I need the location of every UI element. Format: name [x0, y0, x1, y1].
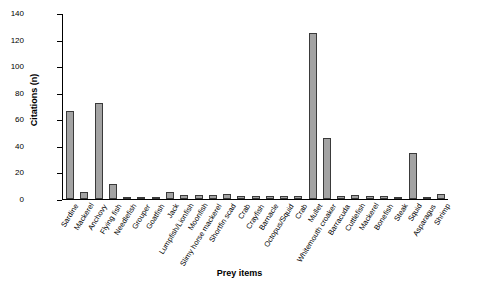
- bar[interactable]: [137, 197, 145, 199]
- bar-slot: [306, 14, 320, 199]
- bar-slot: [63, 14, 77, 199]
- bar-slot: [334, 14, 348, 199]
- bar-slot: [106, 14, 120, 199]
- bar[interactable]: [323, 138, 331, 199]
- bar[interactable]: [195, 195, 203, 199]
- bar-slot: [77, 14, 91, 199]
- bar[interactable]: [394, 197, 402, 199]
- y-tick-mark: [57, 147, 62, 148]
- bar-slot: [134, 14, 148, 199]
- bar[interactable]: [309, 33, 317, 199]
- bar-slot: [248, 14, 262, 199]
- bar[interactable]: [209, 195, 217, 199]
- bar-slot: [120, 14, 134, 199]
- x-tick-label: Steak: [392, 202, 410, 223]
- bar[interactable]: [109, 184, 117, 199]
- bar[interactable]: [351, 195, 359, 199]
- bar-slot: [405, 14, 419, 199]
- bar-slot: [220, 14, 234, 199]
- bar-slot: [206, 14, 220, 199]
- bar[interactable]: [280, 196, 288, 199]
- bar-slot: [234, 14, 248, 199]
- bar-slot: [277, 14, 291, 199]
- y-tick-mark: [57, 41, 62, 42]
- bar-slot: [92, 14, 106, 199]
- bar[interactable]: [266, 196, 274, 199]
- bar[interactable]: [80, 192, 88, 199]
- bar[interactable]: [366, 196, 374, 199]
- bars-layer: [63, 14, 448, 199]
- bar[interactable]: [337, 196, 345, 199]
- bar-slot: [263, 14, 277, 199]
- bar-slot: [191, 14, 205, 199]
- bar-slot: [377, 14, 391, 199]
- y-tick-label: 40: [0, 143, 24, 151]
- y-axis-title: Citations (n): [29, 20, 39, 180]
- bar[interactable]: [180, 195, 188, 199]
- y-tick-mark: [57, 120, 62, 121]
- bar[interactable]: [423, 197, 431, 199]
- bar-slot: [363, 14, 377, 199]
- bar-chart: Citations (n) 020406080100120140 Sardine…: [0, 0, 479, 289]
- y-tick-label: 100: [0, 63, 24, 71]
- y-tick-mark: [57, 200, 62, 201]
- bar-slot: [348, 14, 362, 199]
- y-tick-mark: [57, 94, 62, 95]
- y-tick-mark: [57, 14, 62, 15]
- bar-slot: [320, 14, 334, 199]
- bar[interactable]: [380, 196, 388, 199]
- bar[interactable]: [66, 111, 74, 199]
- bar-slot: [420, 14, 434, 199]
- y-tick-mark: [57, 67, 62, 68]
- y-tick-label: 80: [0, 90, 24, 98]
- bar-slot: [391, 14, 405, 199]
- y-tick-label: 140: [0, 10, 24, 18]
- bar[interactable]: [437, 194, 445, 199]
- bar[interactable]: [223, 194, 231, 199]
- bar[interactable]: [252, 196, 260, 199]
- bar[interactable]: [152, 197, 160, 199]
- x-axis-tick-labels: SardineMackerelAnchovyFlying fishNeedlef…: [62, 202, 448, 266]
- bar[interactable]: [409, 153, 417, 200]
- bar-slot: [291, 14, 305, 199]
- bar[interactable]: [123, 197, 131, 199]
- bar-slot: [149, 14, 163, 199]
- bar[interactable]: [237, 196, 245, 199]
- y-tick-label: 120: [0, 37, 24, 45]
- y-tick-label: 0: [0, 196, 24, 204]
- plot-area: [62, 14, 448, 200]
- bar-slot: [434, 14, 448, 199]
- bar-slot: [163, 14, 177, 199]
- bar-slot: [177, 14, 191, 199]
- y-tick-label: 20: [0, 169, 24, 177]
- y-tick-mark: [57, 173, 62, 174]
- bar[interactable]: [95, 103, 103, 199]
- bar[interactable]: [166, 192, 174, 199]
- y-tick-label: 60: [0, 116, 24, 124]
- x-axis-title: Prey items: [0, 268, 479, 278]
- bar[interactable]: [294, 196, 302, 199]
